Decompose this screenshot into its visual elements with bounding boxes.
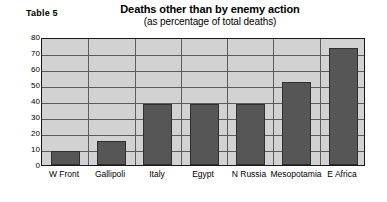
chart-header: Table 5 Deaths other than by enemy actio… — [0, 0, 387, 34]
bar — [97, 141, 126, 165]
bar — [282, 82, 311, 165]
x-axis-tick-label: Italy — [149, 169, 165, 180]
y-axis: 01020304050607080 — [20, 38, 40, 166]
title-block: Deaths other than by enemy action (as pe… — [60, 3, 360, 28]
chart-figure: Table 5 Deaths other than by enemy actio… — [0, 0, 387, 202]
x-axis-tick-label: N Russia — [232, 169, 266, 180]
y-axis-tick-label: 0 — [36, 162, 40, 170]
table-number-label: Table 5 — [26, 8, 58, 18]
chart-subtitle: (as percentage of total deaths) — [60, 16, 360, 28]
x-axis-tick-label: W Front — [49, 169, 79, 180]
y-axis-tick-label: 40 — [31, 98, 40, 106]
y-axis-tick-label: 50 — [31, 82, 40, 90]
plot-area — [41, 38, 365, 166]
y-axis-tick-label: 10 — [31, 146, 40, 154]
y-axis-tick-label: 60 — [31, 66, 40, 74]
x-axis-tick-label: E Africa — [327, 169, 356, 180]
y-axis-tick-label: 30 — [31, 114, 40, 122]
chart-title: Deaths other than by enemy action — [60, 3, 360, 16]
plot-wrapper: 01020304050607080 W FrontGallipoliItalyE… — [0, 38, 387, 202]
x-axis-tick-label: Egypt — [192, 169, 214, 180]
x-axis-tick-label: Mesopotamia — [270, 169, 321, 180]
bar — [51, 151, 80, 165]
y-axis-tick-label: 70 — [31, 50, 40, 58]
y-axis-tick-label: 20 — [31, 130, 40, 138]
bar — [236, 104, 265, 165]
bar-series — [42, 39, 364, 165]
x-axis-labels: W FrontGallipoliItalyEgyptN RussiaMesopo… — [41, 169, 365, 183]
bar — [329, 48, 358, 165]
bar — [143, 104, 172, 165]
y-axis-tick-label: 80 — [31, 34, 40, 42]
x-axis-tick-label: Gallipoli — [95, 169, 125, 180]
bar — [190, 104, 219, 165]
